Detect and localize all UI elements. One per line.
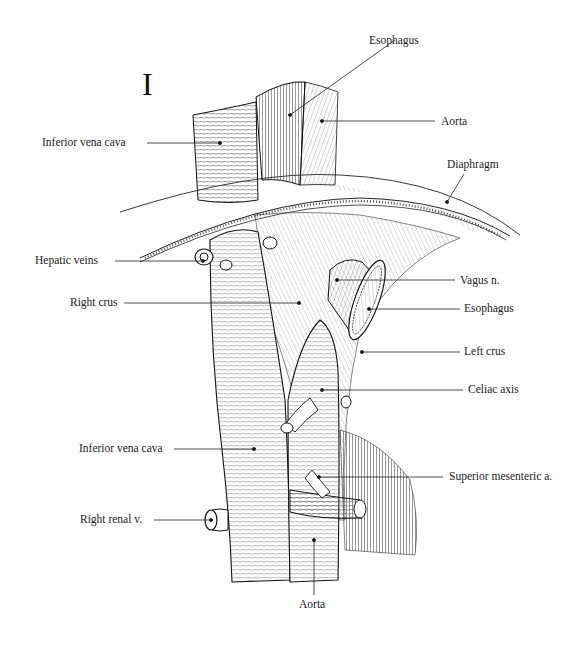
panel-label: I (142, 66, 153, 103)
label-aorta-top: Aorta (441, 115, 467, 128)
inferior-vena-cava-upper-shape (193, 102, 258, 203)
label-aorta-bottom: Aorta (299, 598, 325, 611)
label-inferior-vena-cava-bottom: Inferior vena cava (79, 442, 163, 455)
label-superior-mesenteric-artery: Superior mesenteric a. (449, 470, 552, 483)
label-inferior-vena-cava-top: Inferior vena cava (42, 136, 126, 149)
label-right-crus: Right crus (70, 296, 118, 309)
label-esophagus-mid: Esophagus (464, 302, 514, 315)
label-vagus-nerve: Vagus n. (460, 274, 500, 287)
esophagus-aorta-upper-shape (256, 82, 338, 185)
label-right-renal-vein: Right renal v. (80, 513, 142, 526)
label-left-crus: Left crus (464, 345, 505, 358)
label-celiac-axis: Celiac axis (468, 383, 519, 396)
label-hepatic-veins: Hepatic veins (35, 254, 98, 267)
anatomical-illustration (0, 0, 580, 645)
label-diaphragm: Diaphragm (447, 158, 499, 171)
label-esophagus-top: Esophagus (369, 34, 419, 47)
